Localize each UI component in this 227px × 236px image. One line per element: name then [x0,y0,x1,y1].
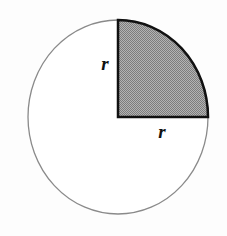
radius-label-horizontal: r [158,121,166,142]
quarter-circle-diagram: r r [0,0,227,236]
figure-canvas: r r [0,0,227,236]
radius-label-vertical: r [101,53,109,74]
shaded-quarter-sector-fill [118,20,208,117]
